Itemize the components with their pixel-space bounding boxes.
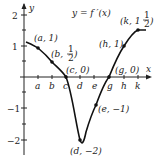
y-axis-label: y [28, 3, 35, 13]
y-tick-2: 2 [12, 11, 18, 21]
point-label-g: (g, 0) [115, 65, 140, 75]
point-label-a: (a, 1) [34, 33, 58, 43]
svg-text:(k, 1: (k, 1 [120, 16, 140, 26]
point-label-e: (e, −1) [98, 104, 130, 114]
svg-text:): ) [149, 16, 154, 26]
y-axis-arrow-icon [22, 3, 27, 9]
point-label-k: (k, 1 1 2 ) [120, 10, 154, 29]
x-tick-h: h [121, 81, 127, 91]
point-label-b: (b, 1 2 ) [51, 44, 78, 63]
y-tick-1: 1 [12, 42, 18, 52]
point-label-d: (d, −2) [70, 146, 102, 156]
chart-title: y = f ′(x) [71, 8, 111, 18]
x-tick-g: g [107, 81, 113, 91]
f-prime-curve [26, 30, 146, 143]
x-axis-arrow-icon [146, 75, 152, 80]
x-tick-b: b [49, 81, 55, 91]
x-axis-label: x [146, 64, 151, 74]
x-tick-e: e [92, 81, 97, 91]
point-label-h: (h, 1) [99, 39, 124, 49]
svg-text:2: 2 [68, 53, 74, 63]
y-tick-neg2: −2 [7, 136, 20, 146]
x-tick-a: a [35, 81, 40, 91]
svg-text:): ) [73, 49, 78, 59]
point-label-c: (c, 0) [66, 65, 90, 75]
y-tick-neg1: −1 [7, 104, 20, 114]
x-tick-d: d [77, 81, 83, 91]
x-tick-k: k [135, 81, 140, 91]
x-tick-c: c [63, 81, 68, 91]
derivative-graph: y x y = f ′(x) 2 1 −1 −2 a b c d e g h k… [0, 0, 159, 163]
svg-text:2: 2 [144, 19, 150, 29]
svg-text:(b,: (b, [51, 49, 63, 59]
